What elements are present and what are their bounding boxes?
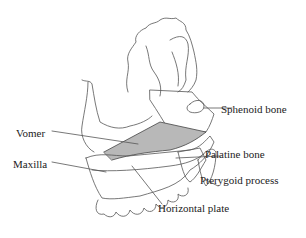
anatomy-diagram bbox=[0, 0, 306, 238]
label-maxilla: Maxilla bbox=[13, 158, 47, 170]
label-vomer: Vomer bbox=[16, 127, 45, 139]
ethmoid-inner-ridge bbox=[170, 37, 188, 92]
label-palatine-bone: Palatine bone bbox=[205, 148, 265, 160]
ethmoid-bone-outline bbox=[127, 18, 197, 92]
horizontal-plate-leader-line bbox=[132, 166, 162, 204]
label-pterygoid-process: Pterygoid process bbox=[200, 174, 279, 186]
vomer-leader-line bbox=[52, 131, 138, 144]
label-horizontal-plate: Horizontal plate bbox=[158, 202, 229, 214]
label-sphenoid-bone: Sphenoid bone bbox=[221, 103, 287, 115]
maxilla-leader-line bbox=[52, 162, 106, 172]
